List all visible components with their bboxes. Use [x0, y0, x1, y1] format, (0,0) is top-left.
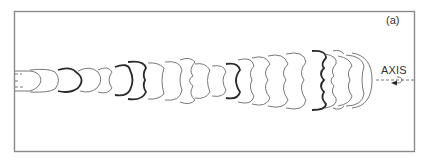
panel-label: (a) — [386, 14, 399, 26]
contour-18 — [312, 51, 326, 110]
wisp-top — [333, 50, 344, 54]
contour-19 — [325, 54, 336, 108]
contour-17 — [286, 53, 306, 109]
inlet-marks — [15, 74, 24, 87]
figure-frame — [15, 12, 415, 152]
contour-10 — [180, 58, 195, 103]
contour-21 — [346, 55, 364, 106]
axis-marker — [376, 77, 414, 86]
figure-panel: (a) AXIS — [0, 0, 426, 158]
axis-arrow-icon — [391, 81, 397, 86]
contour-7 — [128, 62, 146, 100]
contour-15 — [252, 57, 270, 105]
contour-14 — [238, 59, 254, 103]
contour-13 — [226, 64, 240, 99]
contour-16 — [268, 55, 288, 107]
contour-12 — [212, 66, 226, 97]
contour-3 — [58, 68, 82, 92]
contour-9 — [165, 62, 182, 101]
contour-5 — [98, 68, 112, 93]
contour-20 — [338, 56, 352, 106]
contour-11 — [195, 64, 210, 99]
contour-diagram — [0, 0, 426, 158]
contour-group — [15, 50, 372, 110]
axis-label: AXIS — [381, 64, 407, 76]
wisp-bottom — [333, 106, 344, 109]
contour-6 — [115, 65, 133, 95]
contour-8 — [148, 63, 164, 99]
contour-1 — [15, 71, 41, 91]
